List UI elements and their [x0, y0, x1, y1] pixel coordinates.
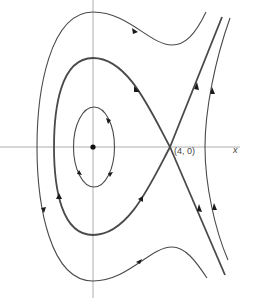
center-point — [90, 144, 95, 149]
arrow-icon — [108, 172, 113, 177]
saddle-point-label: (4, 0) — [174, 146, 195, 156]
arrow-icon — [41, 207, 46, 213]
arrow-icon — [197, 204, 202, 212]
separatrix-loop — [54, 58, 170, 235]
arrow-icon — [56, 193, 62, 199]
separatrix-upper-branch — [170, 17, 222, 147]
phase-portrait — [0, 0, 255, 298]
right-trajectory — [205, 18, 230, 260]
arrow-icon — [212, 203, 217, 210]
x-axis-label: x — [233, 145, 238, 155]
